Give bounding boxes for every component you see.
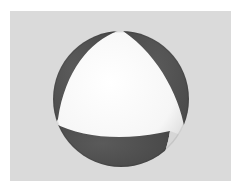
image-panel: Shaded sphere with alternating white and… [10, 11, 231, 181]
light-sliver-top [110, 21, 128, 32]
sphere-graphic [10, 11, 231, 181]
